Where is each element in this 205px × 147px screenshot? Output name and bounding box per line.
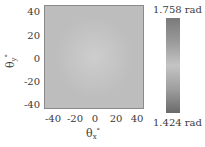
y-axis-degree: ° [4, 54, 12, 58]
heatmap-plot-area [44, 5, 144, 109]
colorbar-max-label: 1.758 rad [153, 5, 202, 15]
x-axis-degree: ° [97, 127, 101, 135]
y-tick-label: 0 [16, 54, 40, 64]
x-axis-label: θx° [86, 127, 100, 141]
y-axis-label: θy° [4, 54, 18, 68]
heatmap-image [45, 6, 143, 108]
x-axis-symbol: θ [86, 127, 93, 140]
y-axis-subscript: y [10, 57, 18, 61]
y-tick-label: -20 [16, 77, 40, 87]
x-tick-label: -40 [41, 114, 65, 124]
y-tick-label: 40 [16, 7, 40, 17]
y-axis-symbol: θ [4, 61, 17, 68]
y-tick-label: 20 [16, 31, 40, 41]
y-tick-label: -40 [16, 100, 40, 110]
phase-heatmap-figure: 40 20 0 -20 -40 -40 -20 0 20 40 θy° θx° … [0, 0, 205, 147]
x-tick-label: 40 [125, 114, 149, 124]
colorbar-min-label: 1.424 rad [153, 118, 202, 128]
colorbar [166, 18, 180, 113]
